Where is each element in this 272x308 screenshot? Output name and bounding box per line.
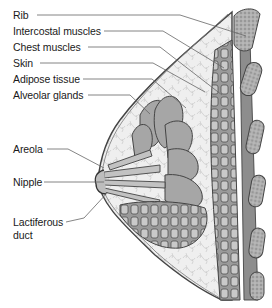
label-alveolar-glands: Alveolar glands [13, 89, 83, 101]
breast-anatomy-diagram: Rib Intercostal muscles Chest muscles Sk… [0, 0, 272, 308]
label-duct: duct [13, 229, 32, 241]
lower-gland-cells [120, 202, 207, 249]
label-nipple: Nipple [13, 176, 42, 188]
label-intercostal-muscles: Intercostal muscles [13, 25, 101, 37]
label-skin: Skin [13, 57, 33, 69]
label-adipose-tissue: Adipose tissue [13, 73, 80, 85]
label-rib: Rib [13, 9, 28, 21]
label-chest-muscles: Chest muscles [13, 41, 81, 53]
label-lactiferous: Lactiferous [13, 216, 63, 228]
label-areola: Areola [13, 143, 43, 155]
